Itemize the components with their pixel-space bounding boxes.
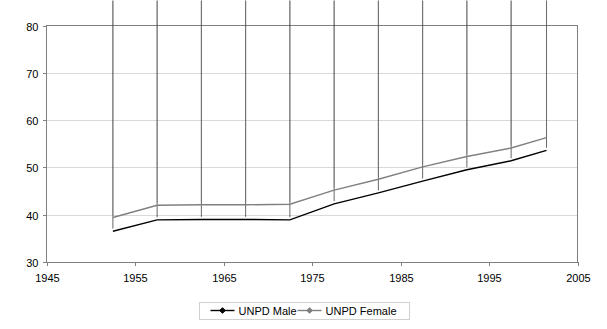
x-tick-label: 1985 (389, 272, 413, 284)
x-tick-label: 1995 (477, 272, 501, 284)
x-tick-label: 1975 (300, 272, 324, 284)
y-tick-label: 70 (26, 68, 38, 80)
legend-label-female: UNPD Female (326, 305, 397, 317)
x-tick-label: 1955 (123, 272, 147, 284)
y-tick-label: 60 (26, 115, 38, 127)
legend-label-male: UNPD Male (239, 305, 297, 317)
chart-legend: UNPD MaleUNPD Female (200, 303, 410, 320)
chart-canvas: 304050607080 194519551965197519851995200… (0, 0, 607, 329)
x-tick-label: 1945 (35, 272, 59, 284)
y-tick-label: 80 (26, 21, 38, 33)
y-tick-label: 40 (26, 210, 38, 222)
y-tick-label: 50 (26, 162, 38, 174)
x-tick-label: 2005 (566, 272, 590, 284)
x-tick-label: 1965 (212, 272, 236, 284)
y-tick-label: 30 (26, 257, 38, 269)
line-chart: 304050607080 194519551965197519851995200… (0, 0, 607, 329)
